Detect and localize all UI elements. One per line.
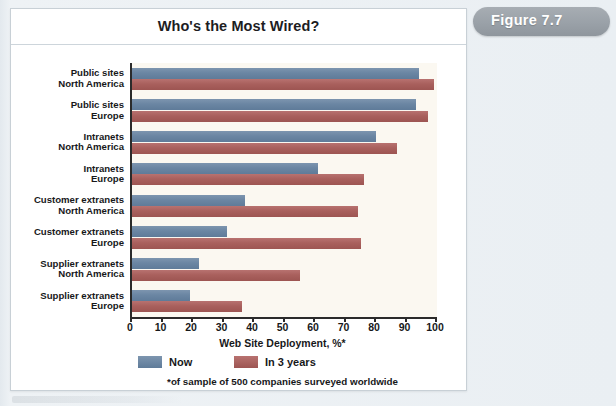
category-label-line1: Public sites [71, 67, 124, 78]
category-label-line2: North America [9, 142, 124, 153]
category-label-line1: Customer extranets [34, 194, 124, 205]
bar-now [132, 290, 190, 301]
category-label-line1: Supplier extranets [40, 290, 124, 301]
category-label-line2: North America [9, 206, 124, 217]
chart-legend: NowIn 3 years [130, 356, 435, 371]
category-label: Supplier extranetsEurope [9, 291, 124, 312]
category-label-line2: Europe [9, 238, 124, 249]
bar-group [132, 190, 437, 222]
bar-now [132, 131, 376, 142]
category-label: Public sitesNorth America [9, 68, 124, 89]
bar-in-3-years [132, 111, 428, 122]
bar-in-3-years [132, 143, 397, 154]
x-axis-tick-label: 0 [127, 321, 133, 333]
bar-group [132, 254, 437, 286]
category-label-line1: Intranets [83, 131, 124, 142]
title-band: Who's the Most Wired? [11, 9, 466, 45]
x-axis-tick-label: 30 [216, 321, 228, 333]
x-axis-tick-label: 20 [185, 321, 197, 333]
page-edge-artifact [12, 396, 182, 403]
x-axis-tick-label: 60 [307, 321, 319, 333]
category-label-line2: North America [9, 269, 124, 280]
legend-item: Now [138, 356, 192, 368]
figure-tab: Figure 7.7 [473, 7, 610, 36]
legend-label: Now [169, 356, 192, 368]
bar-now [132, 226, 227, 237]
bar-group [132, 127, 437, 159]
bar-now [132, 195, 245, 206]
figure-card: Who's the Most Wired? Public sitesNorth … [10, 8, 467, 391]
bar-rows [132, 63, 437, 317]
category-label-line2: Europe [9, 301, 124, 312]
bar-in-3-years [132, 301, 242, 312]
legend-item: In 3 years [234, 356, 316, 368]
category-label-line2: North America [9, 79, 124, 90]
bar-group [132, 222, 437, 254]
bar-in-3-years [132, 79, 434, 90]
bar-group [132, 63, 437, 95]
figure-tab-label: Figure 7.7 [491, 12, 563, 28]
bar-in-3-years [132, 206, 358, 217]
category-label: Public sitesEurope [9, 100, 124, 121]
x-axis-tick-label: 70 [338, 321, 350, 333]
bar-now [132, 99, 416, 110]
x-axis-tick-label: 80 [368, 321, 380, 333]
bar-group [132, 285, 437, 317]
bar-in-3-years [132, 174, 364, 185]
x-axis-tick-label: 40 [246, 321, 258, 333]
plot-wrapper: Public sitesNorth AmericaPublic sitesEur… [11, 45, 466, 390]
category-label: IntranetsEurope [9, 164, 124, 185]
x-axis-tick-label: 100 [426, 321, 444, 333]
category-label-line1: Customer extranets [34, 226, 124, 237]
legend-swatch [138, 356, 162, 368]
category-label-line1: Supplier extranets [40, 258, 124, 269]
category-label-line1: Public sites [71, 99, 124, 110]
bar-in-3-years [132, 270, 300, 281]
plot-area [130, 63, 437, 319]
legend-swatch [234, 356, 258, 368]
x-axis-tick-label: 50 [277, 321, 289, 333]
bar-in-3-years [132, 238, 361, 249]
x-axis-tick-label: 90 [399, 321, 411, 333]
category-label: Customer extranetsEurope [9, 227, 124, 248]
legend-label: In 3 years [265, 356, 316, 368]
bar-now [132, 68, 419, 79]
chart-footnote: *of sample of 500 companies surveyed wor… [130, 376, 435, 387]
x-axis-tick-label: 10 [155, 321, 167, 333]
category-axis-labels: Public sitesNorth AmericaPublic sitesEur… [11, 63, 128, 317]
bar-group [132, 158, 437, 190]
category-label: Customer extranetsNorth America [9, 195, 124, 216]
bar-group [132, 95, 437, 127]
category-label: Supplier extranetsNorth America [9, 259, 124, 280]
chart-title: Who's the Most Wired? [11, 18, 466, 34]
x-axis-tick-labels: 0102030405060708090100 [11, 321, 466, 335]
category-label-line2: Europe [9, 111, 124, 122]
category-label-line2: Europe [9, 174, 124, 185]
category-label-line1: Intranets [83, 163, 124, 174]
bar-now [132, 163, 318, 174]
category-label: IntranetsNorth America [9, 132, 124, 153]
x-axis-title: Web Site Deployment, %* [130, 337, 435, 349]
bar-now [132, 258, 199, 269]
